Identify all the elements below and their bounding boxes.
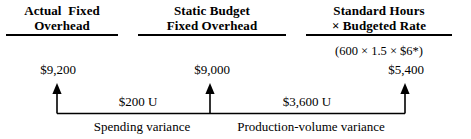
- arrow-up-standard: [400, 83, 409, 114]
- variance-amount-spending: $200 U: [90, 94, 186, 109]
- fixed-overhead-variance-diagram: Actual Fixed Overhead Static Budget Fixe…: [0, 0, 471, 139]
- variance-amount-production-volume: $3,600 U: [252, 94, 362, 109]
- arrow-up-actual: [52, 83, 61, 114]
- arrow-up-static: [205, 83, 214, 114]
- variance-label-production-volume: Production-volume variance: [222, 119, 400, 134]
- variance-label-spending: Spending variance: [78, 119, 206, 134]
